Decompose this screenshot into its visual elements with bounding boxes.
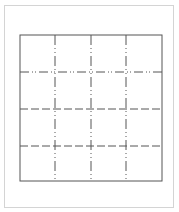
grid-diagram [0,0,179,212]
